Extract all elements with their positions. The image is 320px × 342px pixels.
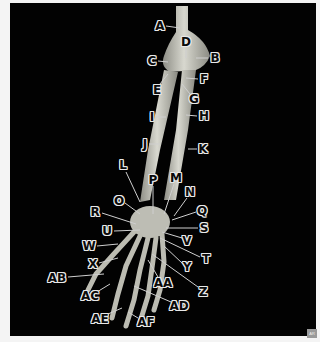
callout-label-q: Q <box>197 205 207 217</box>
callout-label-s: S <box>200 222 209 234</box>
callout-label-z: Z <box>199 286 208 298</box>
callout-label-ab: AB <box>48 272 66 284</box>
callout-label-af: AF <box>137 316 154 328</box>
callout-label-h: H <box>199 110 209 122</box>
callout-label-b: B <box>210 52 219 64</box>
callout-label-u: U <box>102 225 112 237</box>
callout-label-ac: AC <box>81 290 99 302</box>
callout-label-d: D <box>181 36 191 48</box>
callout-label-k: K <box>198 143 207 155</box>
callout-label-m: M <box>170 172 182 184</box>
callout-label-j: J <box>143 138 147 150</box>
callout-label-l: L <box>119 159 127 171</box>
callout-label-p: P <box>149 174 158 186</box>
bone-illustration <box>0 0 320 342</box>
callout-label-aa: AA <box>154 277 173 289</box>
callout-label-g: G <box>189 93 199 105</box>
callout-label-i: I <box>150 111 154 123</box>
callout-label-y: Y <box>183 261 192 273</box>
callout-label-t: T <box>202 253 210 265</box>
callout-label-r: R <box>90 206 99 218</box>
callout-label-ae: AE <box>91 313 108 325</box>
callout-label-ad: AD <box>169 300 188 312</box>
callout-label-e: E <box>153 84 161 96</box>
callout-label-n: N <box>185 186 195 198</box>
callout-label-v: V <box>182 235 191 247</box>
callout-label-a: A <box>155 20 164 32</box>
callout-label-c: C <box>148 55 157 67</box>
callout-label-o: O <box>114 195 124 207</box>
callout-label-x: X <box>88 258 97 270</box>
watermark-logo: AR <box>307 329 317 338</box>
callout-label-w: W <box>82 240 95 252</box>
callout-label-f: F <box>200 73 208 85</box>
